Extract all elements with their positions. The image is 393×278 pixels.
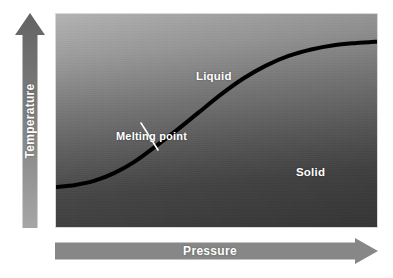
arrow-up-icon [14, 13, 46, 228]
pressure-axis-arrow [55, 238, 378, 264]
arrow-right-icon [55, 238, 378, 264]
phase-boundary-curve-layer [56, 14, 378, 228]
temperature-axis-arrow [14, 13, 46, 228]
phase-diagram-figure: Liquid Solid Melting point Temperature P [0, 0, 393, 278]
melting-curve-path [56, 42, 378, 188]
plot-area: Liquid Solid Melting point [55, 13, 378, 228]
region-label-liquid: Liquid [196, 70, 232, 82]
annotation-label-melting-point: Melting point [116, 130, 187, 142]
region-label-solid: Solid [296, 166, 325, 178]
